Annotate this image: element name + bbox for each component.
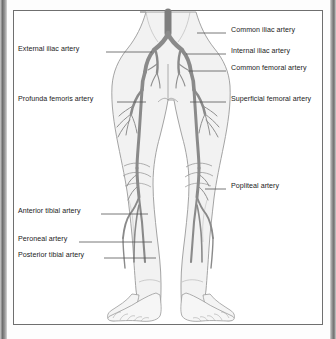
body-silhouette: [112, 12, 230, 307]
label-profunda-femoris-artery: Profunda femoris artery: [18, 96, 93, 103]
label-internal-iliac-artery: Internal iliac artery: [231, 48, 290, 55]
label-common-iliac-artery: Common iliac artery: [231, 27, 295, 34]
feet: [108, 293, 235, 321]
figure-page: External iliac arteryProfunda femoris ar…: [0, 0, 336, 339]
anterior-tibial-distal-left: [123, 238, 125, 268]
label-anterior-tibial-artery: Anterior tibial artery: [18, 208, 81, 215]
anterior-tibial-distal-right: [211, 238, 213, 268]
label-posterior-tibial-artery: Posterior tibial artery: [18, 252, 84, 259]
label-common-femoral-artery: Common femoral artery: [231, 65, 307, 72]
label-popliteal-artery: Popliteal artery: [231, 183, 279, 190]
label-superficial-femoral-artery: Superficial femoral artery: [231, 96, 311, 103]
label-peroneal-artery: Peroneal artery: [18, 236, 67, 243]
label-external-iliac-artery: External iliac artery: [18, 46, 79, 53]
